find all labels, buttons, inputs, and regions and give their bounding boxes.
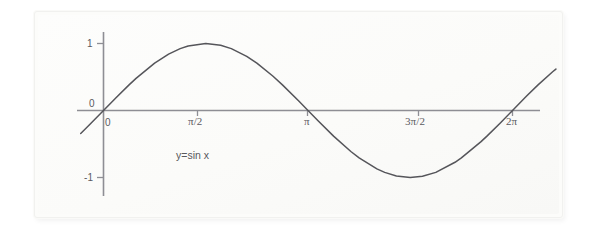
y-tick-label-minus-1: -1: [84, 172, 93, 183]
x-tick-label-3pi-over-2: 3π/2: [405, 116, 425, 127]
y-tick-label-1: 1: [87, 38, 93, 49]
figure-page: 1 0 -1 0 π/2 π 3π/2 2π y=sin x: [0, 0, 599, 232]
y-tick-label-0: 0: [89, 98, 95, 109]
x-tick-label-pi-over-2: π/2: [188, 116, 202, 127]
x-tick-label-2pi: 2π: [506, 116, 517, 127]
x-tick-label-pi: π: [304, 116, 310, 127]
x-tick-label-0: 0: [105, 117, 111, 128]
equation-annotation: y=sin x: [176, 149, 209, 161]
